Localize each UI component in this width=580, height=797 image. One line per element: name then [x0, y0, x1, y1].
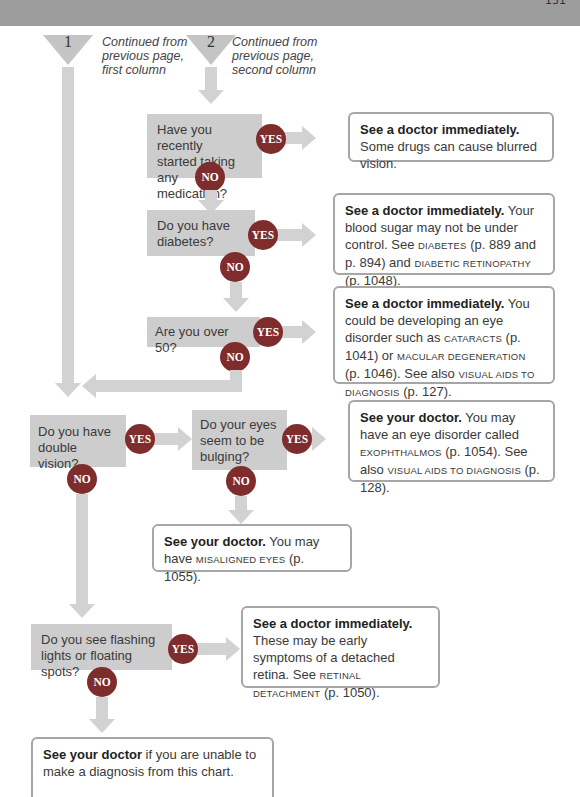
- arrow-right-icon: [302, 223, 316, 247]
- answer-emphasis: See your doctor.: [164, 534, 266, 549]
- connector-2-line: second column: [232, 63, 317, 77]
- no-connector: [230, 282, 242, 298]
- connector-2-label: Continued from previous page, second col…: [232, 35, 317, 77]
- connector-2-line: Continued from: [232, 35, 317, 49]
- cross-reference-link[interactable]: DIABETES: [418, 240, 467, 251]
- no-badge: NO: [195, 162, 225, 192]
- column-2-line: [205, 67, 217, 90]
- page-header-bar: 131: [0, 0, 580, 26]
- answer-flashing-lights: See a doctor immediately. These may be e…: [241, 606, 440, 688]
- question-line: Do you have: [157, 218, 245, 234]
- cross-reference-link[interactable]: EXOPHTHALMOS: [360, 447, 442, 458]
- cross-reference-link[interactable]: VISUAL AIDS TO DIAGNOSIS: [387, 465, 520, 476]
- connector-2-number: 2: [186, 33, 236, 51]
- arrow-down-icon: [55, 383, 81, 397]
- cross-reference-link[interactable]: CATARACTS: [444, 333, 502, 344]
- page-number: 131: [545, 0, 566, 7]
- arrow-down-icon: [223, 298, 249, 312]
- yes-badge: YES: [248, 220, 278, 250]
- answer-text: Some drugs can cause blurred vision.: [360, 139, 537, 171]
- yes-badge: YES: [168, 634, 198, 664]
- no-badge: NO: [220, 342, 250, 372]
- answer-misaligned-eyes: See your doctor. You may have MISALIGNED…: [152, 524, 352, 572]
- question-line: diabetes?: [157, 234, 245, 250]
- answer-text: (p. 1050).: [320, 685, 379, 700]
- question-bulging: Do your eyes seem to be bulging?: [192, 410, 287, 470]
- connector-1-line: previous page,: [102, 49, 187, 63]
- answer-emphasis: See a doctor immediately.: [345, 296, 504, 311]
- question-line: bulging?: [200, 449, 279, 465]
- cross-reference-link[interactable]: MISALIGNED EYES: [196, 554, 286, 565]
- answer-emphasis: See a doctor immediately.: [360, 122, 519, 137]
- connector-1-label: Continued from previous page, first colu…: [102, 35, 187, 77]
- arrow-down-icon: [228, 510, 254, 524]
- arrow-right-icon: [302, 126, 316, 150]
- question-line: seem to be: [200, 433, 279, 449]
- answer-emphasis: See your doctor.: [360, 410, 462, 425]
- arrow-down-icon: [198, 90, 224, 104]
- no-badge: NO: [226, 466, 256, 496]
- no-connector: [205, 190, 217, 200]
- yes-badge: YES: [125, 424, 155, 454]
- yes-badge: YES: [282, 424, 312, 454]
- answer-emphasis: See a doctor immediately.: [253, 616, 412, 631]
- arrow-down-icon: [89, 719, 115, 733]
- answer-medication: See a doctor immediately. Some drugs can…: [348, 112, 554, 162]
- no-badge: NO: [67, 464, 97, 494]
- connector-1-line: Continued from: [102, 35, 187, 49]
- merge-connector: [96, 380, 242, 392]
- arrow-right-icon: [178, 427, 192, 451]
- arrow-right-icon: [226, 637, 240, 661]
- answer-bulging: See your doctor. You may have an eye dis…: [348, 400, 555, 482]
- question-line: Do you see flashing: [41, 632, 162, 648]
- answer-emphasis: See your doctor: [43, 747, 142, 762]
- no-badge: NO: [220, 252, 250, 282]
- question-over-50: Are you over 50?: [147, 317, 260, 347]
- question-line: Do your eyes: [200, 417, 279, 433]
- no-connector: [235, 496, 247, 510]
- arrow-right-icon: [302, 320, 316, 344]
- question-double-vision: Do you have double vision?: [30, 415, 126, 467]
- no-connector: [96, 697, 108, 719]
- arrow-left-icon: [82, 374, 96, 398]
- answer-diabetes: See a doctor immediately. Your blood sug…: [333, 193, 555, 275]
- arrow-right-icon: [312, 427, 326, 451]
- question-flashing-lights: Do you see flashing lights or floating s…: [31, 624, 172, 670]
- answer-final: See your doctor if you are unable to mak…: [31, 737, 274, 797]
- connector-1-line: first column: [102, 63, 187, 77]
- yes-badge: YES: [253, 317, 283, 347]
- question-diabetes: Do you have diabetes?: [147, 210, 255, 256]
- connector-1-number: 1: [43, 33, 93, 51]
- answer-emphasis: See a doctor immediately.: [345, 203, 504, 218]
- column-1-line: [62, 67, 74, 383]
- yes-badge: YES: [256, 124, 286, 154]
- question-line: Have you recently: [157, 122, 252, 154]
- answer-text: (p. 127).: [400, 384, 452, 399]
- connector-2-line: previous page,: [232, 49, 317, 63]
- cross-reference-link[interactable]: DIABETIC RETINOPATHY: [414, 258, 531, 269]
- answer-over-50: See a doctor immediately. You could be d…: [333, 286, 555, 384]
- arrow-down-icon: [69, 604, 95, 618]
- answer-text: (p. 1046). See also: [345, 366, 458, 381]
- no-connector: [76, 494, 88, 604]
- cross-reference-link[interactable]: MACULAR DEGENERATION: [397, 351, 525, 362]
- question-line: Do you have: [38, 424, 118, 440]
- no-badge: NO: [87, 667, 117, 697]
